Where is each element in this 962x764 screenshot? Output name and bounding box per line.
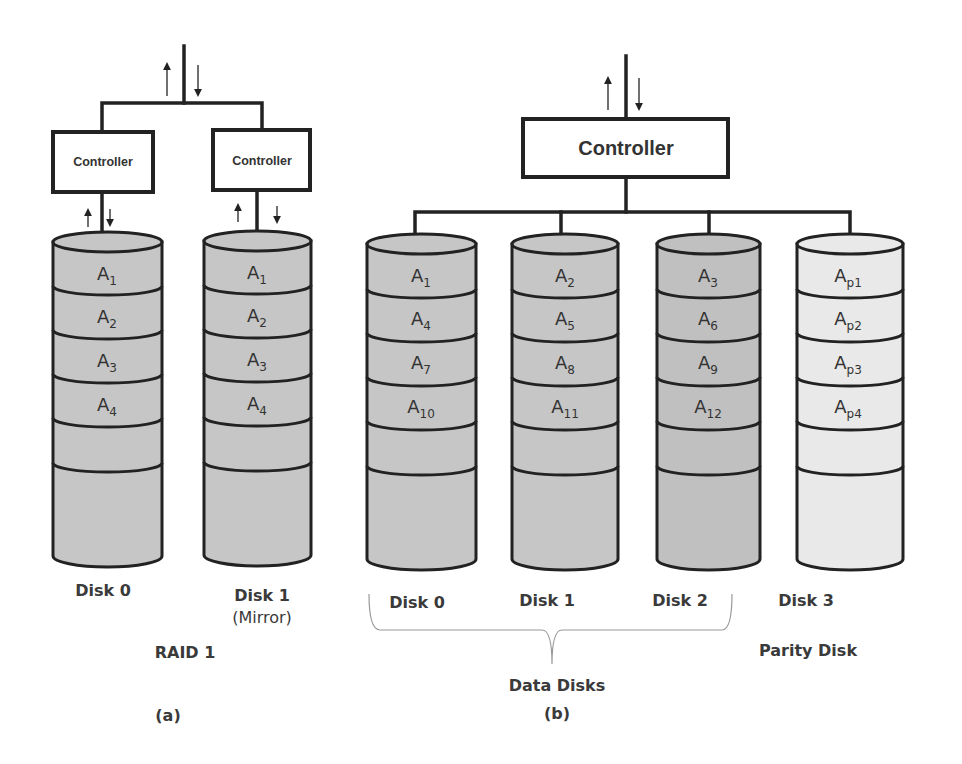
controller-box-left: Controller	[53, 132, 153, 192]
data-disks-label: Data Disks	[509, 676, 606, 695]
controller-split-bus	[102, 103, 262, 132]
disk-a0: A1 A2 A3 A4	[53, 232, 162, 567]
panel-label-b: (b)	[544, 704, 570, 723]
controller-label: Controller	[578, 137, 674, 159]
disk-b3-parity: Ap1 Ap2 Ap3 Ap4	[797, 234, 903, 570]
controller-label: Controller	[73, 155, 133, 169]
disk-b0: A1 A4 A7 A10	[367, 234, 476, 570]
disk-label: Disk 3	[778, 591, 834, 610]
raid-level-caption: RAID 1	[155, 643, 216, 662]
disk-b2: A3 A6 A9 A12	[657, 234, 760, 570]
disk-a1-mirror: A1 A2 A3 A4	[204, 231, 311, 566]
controller-box-main: Controller	[523, 119, 728, 177]
disk-label: Disk 2	[652, 591, 708, 610]
disk-b1: A2 A5 A8 A11	[512, 234, 618, 570]
disk-bus	[415, 212, 850, 234]
panel-b-parity-raid: Controller A1 A4 A7 A10 Disk 0	[367, 56, 903, 723]
controller-label: Controller	[232, 154, 292, 168]
panel-label-a: (a)	[155, 706, 180, 725]
disk-label: Disk 1	[234, 586, 290, 605]
parity-disk-label: Parity Disk	[759, 641, 857, 660]
disk-label: Disk 1	[519, 591, 575, 610]
disk-label: Disk 0	[75, 581, 131, 600]
disk-label: Disk 0	[389, 593, 445, 612]
panel-a-raid1: Controller Controller A1 A2 A3 A4 Disk 0	[53, 46, 311, 725]
raid-diagram: Controller Controller A1 A2 A3 A4 Disk 0	[0, 0, 962, 764]
mirror-note: (Mirror)	[232, 608, 292, 627]
controller-box-right: Controller	[213, 130, 310, 190]
